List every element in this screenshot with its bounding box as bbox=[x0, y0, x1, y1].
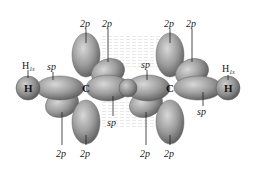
label-2p-bottom-2: 2p bbox=[80, 148, 90, 159]
orbital-diagram-svg: H C C H 2p 2p 2p 2p H1s sp sp sp sp H1s … bbox=[0, 0, 254, 170]
label-sp-center-bottom: sp bbox=[107, 117, 116, 128]
label-h1s-right: H1s bbox=[222, 63, 235, 75]
label-h1s-left: H1s bbox=[22, 60, 35, 72]
label-sp-center-top: sp bbox=[141, 59, 150, 70]
atom-h-left: H bbox=[24, 82, 33, 94]
sp-hybrid-orbitals bbox=[36, 75, 222, 101]
label-2p-bottom-1: 2p bbox=[56, 148, 66, 159]
label-sp-left: sp bbox=[47, 61, 56, 72]
label-2p-top-1: 2p bbox=[80, 18, 90, 29]
atom-h-right: H bbox=[224, 82, 233, 94]
label-2p-bottom-3: 2p bbox=[140, 148, 150, 159]
acetylene-orbital-diagram: H C C H 2p 2p 2p 2p H1s sp sp sp sp H1s … bbox=[0, 0, 254, 170]
atom-c-right: C bbox=[166, 82, 174, 94]
label-sp-right: sp bbox=[197, 106, 206, 117]
label-2p-bottom-4: 2p bbox=[164, 148, 174, 159]
atom-c-left: C bbox=[82, 82, 90, 94]
label-2p-top-2: 2p bbox=[102, 18, 112, 29]
label-2p-top-3: 2p bbox=[164, 18, 174, 29]
label-2p-top-4: 2p bbox=[186, 18, 196, 29]
